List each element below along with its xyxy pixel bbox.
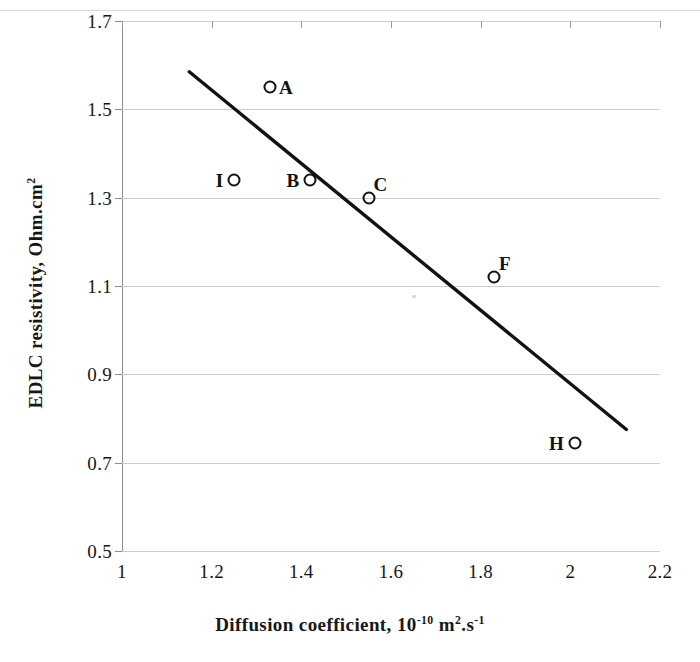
data-point-label: I — [216, 171, 223, 190]
x-axis-title-exponent-1: -10 — [417, 614, 434, 627]
x-tick-mark — [481, 21, 482, 28]
x-tick-mark — [301, 21, 302, 28]
x-axis-title: Diffusion coefficient, 10-10 m2.s-1 — [0, 614, 700, 636]
y-tick-mark — [115, 109, 122, 110]
data-point-marker[interactable] — [263, 81, 276, 94]
x-tick-label: 1 — [117, 562, 127, 581]
y-tick-mark — [115, 374, 122, 375]
data-point-marker[interactable] — [228, 174, 241, 187]
data-point-label: A — [279, 78, 293, 97]
y-tick-label: 1.7 — [87, 12, 112, 31]
y-axis-title: EDLC resistivity, Ohm.cm2 — [14, 128, 58, 458]
y-tick-label: 0.5 — [87, 542, 112, 561]
x-tick-label: 2 — [565, 562, 575, 581]
scan-speck — [412, 295, 416, 298]
x-axis-title-mid: m — [434, 614, 455, 635]
x-tick-label: 1.8 — [468, 562, 493, 581]
y-tick-mark — [115, 198, 122, 199]
data-point-label: B — [287, 171, 300, 190]
y-tick-label: 1.1 — [87, 277, 112, 296]
x-axis-title-text: Diffusion coefficient, 10 — [215, 614, 417, 635]
x-tick-label: 2.2 — [648, 562, 673, 581]
x-tick-mark — [391, 21, 392, 28]
y-tick-mark — [115, 463, 122, 464]
gridline-horizontal — [122, 463, 660, 464]
y-tick-label: 0.9 — [87, 365, 112, 384]
y-tick-label: 1.5 — [87, 100, 112, 119]
data-point-marker[interactable] — [568, 436, 581, 449]
y-axis-title-text: EDLC resistivity, Ohm.cm — [25, 184, 46, 409]
x-axis-title-post: .s — [461, 614, 474, 635]
x-tick-label: 1.2 — [199, 562, 224, 581]
y-tick-mark — [115, 21, 122, 22]
x-tick-mark — [660, 21, 661, 28]
data-point-marker[interactable] — [304, 174, 317, 187]
y-tick-mark — [115, 551, 122, 552]
data-point-label: C — [374, 175, 388, 194]
gridline-horizontal — [122, 286, 660, 287]
y-tick-mark — [115, 286, 122, 287]
x-tick-mark — [212, 21, 213, 28]
x-tick-label: 1.4 — [289, 562, 314, 581]
plot-area: AIBCFH — [122, 21, 660, 551]
x-tick-label: 1.6 — [379, 562, 404, 581]
y-axis-tick-labels: 0.50.70.91.11.31.51.7 — [60, 21, 112, 552]
data-point-label: H — [549, 433, 564, 452]
gridline-horizontal — [122, 198, 660, 199]
data-point-label: F — [499, 254, 511, 273]
y-tick-label: 1.3 — [87, 189, 112, 208]
x-tick-mark — [570, 21, 571, 28]
scatter-chart-figure: EDLC resistivity, Ohm.cm2 0.50.70.91.11.… — [0, 0, 700, 662]
y-axis-title-exponent: 2 — [25, 178, 38, 184]
gridline-horizontal — [122, 374, 660, 375]
gridline-horizontal — [122, 109, 660, 110]
x-axis-title-exponent-3: -1 — [474, 614, 485, 627]
gridline-horizontal — [122, 551, 660, 552]
x-tick-mark — [122, 21, 123, 28]
x-axis-tick-labels: 11.21.41.61.822.2 — [122, 562, 682, 588]
y-tick-label: 0.7 — [87, 454, 112, 473]
